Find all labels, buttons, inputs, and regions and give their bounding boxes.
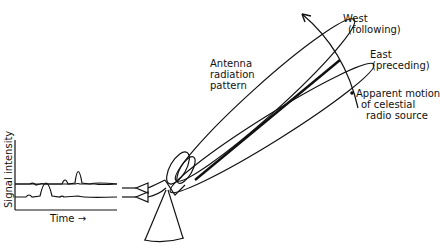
motion-label-3: radio source <box>366 110 428 121</box>
antenna-label-3: pattern <box>210 80 247 91</box>
motion-label-2: of celestial <box>361 99 415 110</box>
signal-plot <box>15 140 118 210</box>
east-label: East <box>370 49 392 60</box>
west-label: West <box>343 13 368 24</box>
x-axis-label: Time → <box>50 213 86 224</box>
antenna-mount <box>144 190 184 242</box>
west-lobe <box>166 9 364 192</box>
antenna-label-1: Antenna <box>210 58 252 69</box>
antenna-label-2: radiation <box>210 69 255 80</box>
antenna-dish <box>162 148 199 195</box>
west-sub-label: (following) <box>348 24 401 35</box>
receivers <box>122 180 166 202</box>
motion-label-1: Apparent motion <box>356 88 440 99</box>
east-sub-label: (preceding) <box>372 60 430 71</box>
y-axis-label: Signal intensity <box>3 131 14 208</box>
